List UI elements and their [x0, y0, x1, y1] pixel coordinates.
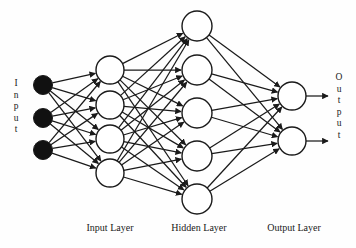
connection-line: [212, 99, 277, 111]
node-input-source-0: [34, 76, 53, 95]
node-hidden-layer-2: [182, 98, 212, 128]
node-hidden-layer-3: [182, 141, 212, 171]
connection-line: [211, 74, 277, 92]
node-output-layer-0: [278, 82, 306, 110]
node-input-source-1: [34, 109, 53, 128]
output-side-label-letter-0: O: [331, 72, 347, 84]
input-side-label: Input: [8, 78, 24, 136]
output-side-label-letter-3: p: [331, 107, 347, 119]
input-side-label-letter-1: n: [8, 90, 24, 102]
connection-line: [209, 79, 280, 132]
connection-line: [209, 35, 280, 87]
output-side-label-letter-5: t: [331, 130, 347, 142]
connection-line: [212, 143, 277, 153]
output-side-label-letter-1: u: [331, 84, 347, 96]
output-side-label-letter-2: t: [331, 95, 347, 107]
caption-hidden-layer: Hidden Layer: [158, 222, 240, 233]
output-side-label: Output: [331, 72, 347, 141]
connection-line: [210, 149, 279, 191]
input-side-label-letter-2: p: [8, 101, 24, 113]
node-input-layer-3: [96, 159, 124, 187]
connection-line: [51, 113, 98, 144]
node-input-layer-0: [96, 56, 124, 84]
connection-line: [119, 82, 187, 162]
input-side-label-letter-3: u: [8, 113, 24, 125]
network-graphic: [0, 0, 356, 248]
connection-line: [119, 39, 188, 128]
node-input-source-2: [34, 141, 53, 160]
connection-line: [49, 93, 101, 162]
node-input-layer-2: [96, 125, 124, 153]
node-input-layer-1: [96, 91, 124, 119]
connection-line: [211, 117, 277, 137]
caption-output-layer: Output Layer: [252, 222, 336, 233]
caption-input-layer: Input Layer: [70, 222, 150, 233]
node-hidden-layer-4: [182, 184, 212, 214]
neural-network-diagram: Input Output Input Layer Hidden Layer Ou…: [0, 0, 356, 248]
connection-line: [52, 73, 95, 83]
connection-line: [50, 124, 98, 163]
connection-line: [123, 177, 181, 194]
node-output-layer-1: [278, 127, 306, 155]
connection-line: [123, 76, 182, 100]
input-side-label-letter-4: t: [8, 124, 24, 136]
node-hidden-layer-0: [182, 11, 212, 41]
connection-line: [122, 33, 182, 63]
node-hidden-layer-1: [182, 55, 212, 85]
connection-line: [210, 104, 280, 148]
connection-line: [50, 91, 98, 130]
input-side-label-letter-0: I: [8, 78, 24, 90]
output-side-label-letter-4: u: [331, 118, 347, 130]
connection-line: [51, 79, 98, 113]
